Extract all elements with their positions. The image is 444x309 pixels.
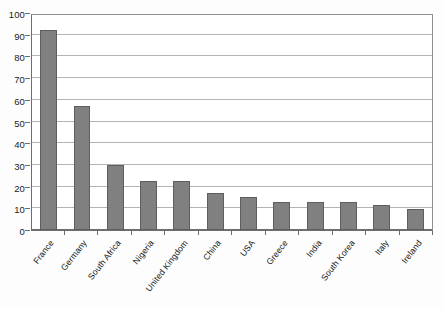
x-label-cell: South Africa [98,236,132,306]
x-label-cell: China [199,236,233,306]
bar-slot [232,15,265,230]
bar[interactable] [40,30,57,230]
x-axis-labels: FranceGermanySouth AfricaNigeriaUnited K… [31,236,433,306]
y-tick-mark [25,122,30,123]
y-tick-label: 0 [20,226,25,237]
y-tick-mark [25,165,30,166]
y-tick-label: 20 [14,182,25,193]
y-tick-label: 10 [14,204,25,215]
bar-chart: 0102030405060708090100 FranceGermanySout… [0,0,444,309]
x-tick-label-text: France [31,238,56,266]
x-tick-label-text: Italy [373,238,391,257]
bar[interactable] [340,202,357,230]
x-label-cell: USA [232,236,266,306]
x-label-cell: South Korea [333,236,367,306]
bar[interactable] [407,209,424,230]
x-label-cell: United Kingdom [165,236,199,306]
bar-slot [132,15,165,230]
x-label-cell: France [31,236,65,306]
bar-slot [99,15,132,230]
bar[interactable] [173,181,190,230]
bar[interactable] [273,202,290,230]
y-tick-mark [25,230,30,231]
x-tick-label-text: China [201,238,223,262]
bar[interactable] [74,106,91,230]
bar-slot [265,15,298,230]
y-tick-label: 40 [14,139,25,150]
x-tick-label-text: India [304,238,324,259]
x-tick-label-text: USA [238,238,257,258]
bar-slot [365,15,398,230]
x-tick-label-text: Greece [265,238,291,267]
y-tick-label: 70 [14,74,25,85]
y-tick-mark [25,100,30,101]
plot-area-wrapper [31,14,433,231]
bars-layer [32,15,432,230]
y-tick-label: 60 [14,95,25,106]
bar-slot [399,15,432,230]
x-label-cell: Italy [366,236,400,306]
y-tick-label: 80 [14,52,25,63]
y-tick-mark [25,187,30,188]
y-tick-label: 100 [9,9,25,20]
plot-area [31,14,433,231]
bar-slot [332,15,365,230]
y-tick-mark [25,143,30,144]
y-axis: 0102030405060708090100 [0,14,25,231]
bar-slot [65,15,98,230]
y-tick-mark [25,78,30,79]
y-tick-label: 30 [14,160,25,171]
x-tick-label-text: Nigeria [131,238,156,266]
y-tick-mark [25,13,30,14]
y-tick-mark [25,56,30,57]
x-label-cell: Greece [266,236,300,306]
bar[interactable] [240,197,257,230]
bar[interactable] [307,202,324,230]
y-tick-mark [25,208,30,209]
bar-slot [299,15,332,230]
x-label-cell: Ireland [400,236,434,306]
x-tick-label-text: Ireland [400,238,424,265]
y-tick-mark [25,35,30,36]
bar-slot [165,15,198,230]
y-tick-label: 90 [14,30,25,41]
x-tick-label-text: Germany [59,238,89,273]
y-tick-label: 50 [14,117,25,128]
bar-slot [32,15,65,230]
bar[interactable] [107,165,124,230]
